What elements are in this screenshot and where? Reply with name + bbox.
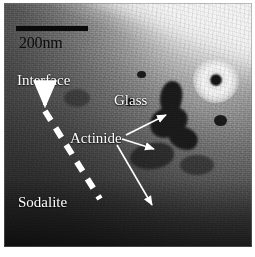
micrograph-image: 200nm Interface Glass Actinide Sodalite (4, 3, 252, 247)
annotation-overlay (4, 3, 252, 247)
interface-marker (45, 91, 100, 199)
actinide-arrow-3 (117, 145, 152, 205)
actinide-arrow-2 (122, 139, 154, 149)
actinide-arrow-1 (126, 115, 166, 135)
micrograph-figure: 200nm Interface Glass Actinide Sodalite (0, 0, 255, 257)
